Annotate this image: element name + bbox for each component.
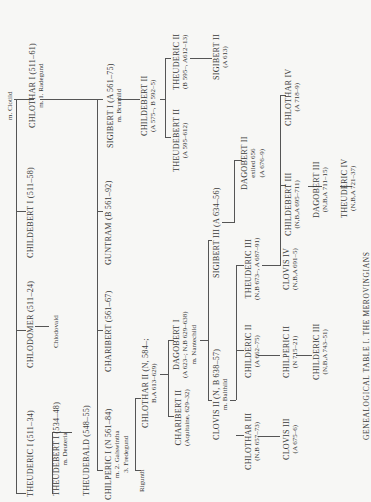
node-charibert2: CHARIBERT II (Aquitaine, 629–32) — [174, 389, 192, 446]
connector — [200, 340, 208, 341]
connector — [236, 350, 244, 351]
connector — [165, 137, 171, 138]
genealogical-table-page: m. Clotild CHLOTHAR I (511–61) m. 1. Rad… — [0, 0, 371, 502]
node-chilperic1: CHILPERIC I (N 561–84) m. 2. Galswintha … — [104, 408, 131, 500]
connector — [234, 160, 235, 223]
connector — [97, 470, 103, 471]
table-caption: GENEALOGICAL TABLE I. THE MEROVINGIANS — [362, 251, 371, 440]
connector — [236, 435, 244, 436]
node-charibert1: CHARIBERT (561–67) — [104, 291, 113, 372]
connector — [97, 330, 103, 331]
connector — [168, 340, 169, 417]
node-chlodovald: Chlodovald — [52, 315, 61, 348]
node-childebert3: CHILDEBERT III (N,B,A 695–711) — [284, 173, 302, 236]
connector — [280, 95, 281, 266]
connector — [236, 265, 237, 400]
connector — [97, 99, 98, 471]
node-chilperic2: CHILPERIC II (N 715–21) — [282, 326, 300, 378]
connector — [160, 374, 168, 375]
node-theuderic4: THEUDERIC IV (N,B,A 721–37) — [340, 159, 358, 218]
node-rigunth: Rigunth — [138, 469, 147, 492]
node-childebert2: CHILDEBERT II (A 575–, B 592–5) — [140, 76, 158, 136]
connector — [165, 58, 171, 59]
node-dagobert2: DAGOBERT II exiled 656 (A 676–9) — [240, 136, 267, 190]
node-theuderic3: THEUDERIC III (N,B 673–, A 687–91) — [244, 238, 262, 300]
node-clovis3: CLOVIS III (A 675–6) — [282, 418, 300, 460]
node-childebert1: CHILDEBERT I (511–58) — [26, 167, 35, 258]
node-sigibert3: SIGIBERT III (A 634–56) — [212, 187, 221, 278]
node-chlothar3: CHLOTHAR III (N,B 657–73) — [244, 413, 262, 470]
node-childeric3: CHILDERIC III (N,B,A 743–51) — [312, 324, 330, 381]
connector — [16, 211, 26, 212]
connector — [165, 58, 166, 138]
connector — [190, 58, 212, 59]
connector — [262, 265, 280, 266]
connector — [135, 398, 136, 470]
node-sigibert2: SIGIBERT II (A 613) — [212, 34, 230, 80]
node-theudebert2: THEUDEBERT II (A 595–612) — [172, 109, 190, 172]
node-dagobert1: DAGOBERT I (A 623–; N,B 629–638) m. Nant… — [172, 312, 199, 379]
connector — [35, 326, 49, 327]
node-theudebald: THEUDEBALD (548–55) — [82, 405, 91, 496]
node-dagobert3: DAGOBERT III (N,B,A 711–15) — [312, 161, 330, 218]
node-guntram: GUNTRAM (B 561–92) — [104, 180, 113, 265]
connector — [16, 330, 26, 331]
connector — [16, 493, 26, 494]
connector — [230, 400, 236, 401]
node-chlothar4: CHLOTHAR IV (A 718–9) — [284, 69, 302, 126]
node-theuderic2: THEUDERIC II (B 595–, A612–13) — [172, 34, 190, 90]
connector — [40, 99, 97, 100]
node-clovis2: CLOVIS II (N, B 638–57) m. Balthild — [212, 349, 230, 440]
connector — [160, 99, 166, 100]
connector — [236, 265, 244, 266]
node-chlothar1: CHLOTHAR I (511–61) m. 1. Radegund — [28, 43, 46, 128]
connector — [222, 222, 234, 223]
node-chlothar2: CHLOTHAR II (N, 584–; B,A 613–629) — [141, 338, 159, 428]
root-marriage: m. Clotild — [6, 92, 15, 120]
connector — [208, 240, 209, 400]
connector — [97, 211, 103, 212]
connector — [16, 99, 26, 100]
node-clovis4: CLOVIS IV (N,B,A 691–5) — [282, 248, 300, 290]
node-childeric2: CHILDERIC II (A 662–75) — [244, 324, 262, 378]
node-theuderic1: THEUDERIC I (511–34) — [26, 410, 35, 497]
node-theudebert1: THEUDEBERT I (534–48) m. Deuteria — [52, 402, 70, 496]
node-chlodomer: CHLODOMER (511–24) — [26, 281, 35, 368]
connector — [16, 99, 17, 494]
connector — [97, 99, 103, 100]
node-sigibert1: SIGIBERT I (A 561–75) m. Brunhild — [106, 63, 124, 148]
